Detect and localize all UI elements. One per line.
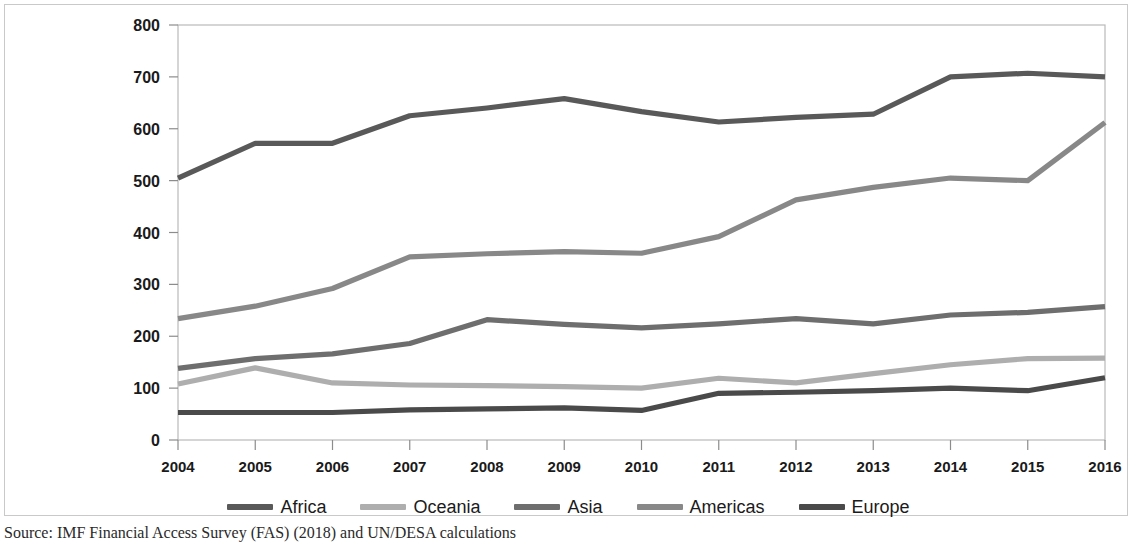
y-axis-labels: 0100200300400500600700800 (133, 17, 160, 449)
x-axis-tick-label: 2009 (548, 458, 581, 475)
legend-label: Oceania (413, 497, 480, 518)
chart-svg: 0100200300400500600700800 20042005200620… (0, 0, 1137, 495)
legend-item-africa[interactable]: Africa (227, 497, 326, 518)
legend-item-europe[interactable]: Europe (799, 497, 910, 518)
x-axis-tick-label: 2012 (779, 458, 812, 475)
legend-item-americas[interactable]: Americas (637, 497, 765, 518)
x-axis-tick-label: 2016 (1088, 458, 1121, 475)
legend-label: Africa (280, 497, 326, 518)
x-axis-labels: 2004200520062007200820092010201120122013… (161, 458, 1121, 475)
x-axis-tick-label: 2014 (934, 458, 968, 475)
y-axis-tick-label: 0 (151, 432, 160, 449)
legend-item-asia[interactable]: Asia (514, 497, 602, 518)
y-axis-tick-label: 500 (133, 173, 160, 190)
x-axis-tick-label: 2006 (316, 458, 349, 475)
x-axis-tick-label: 2008 (470, 458, 503, 475)
x-axis-tick-label: 2005 (239, 458, 272, 475)
y-axis-tick-label: 700 (133, 69, 160, 86)
y-axis-tick-label: 300 (133, 276, 160, 293)
source-note: Source: IMF Financial Access Survey (FAS… (4, 524, 516, 542)
legend-swatch-icon (360, 504, 406, 510)
x-axis-tick-label: 2007 (393, 458, 426, 475)
legend-swatch-icon (227, 504, 273, 510)
y-axis-tick-label: 200 (133, 328, 160, 345)
figure-page: 0100200300400500600700800 20042005200620… (0, 0, 1137, 545)
y-axis-tick-label: 800 (133, 17, 160, 34)
x-axis-tick-label: 2013 (857, 458, 890, 475)
line-chart: 0100200300400500600700800 20042005200620… (0, 0, 1137, 495)
legend-swatch-icon (514, 504, 560, 510)
legend-item-oceania[interactable]: Oceania (360, 497, 480, 518)
legend-label: Americas (690, 497, 765, 518)
y-axis-tick-label: 400 (133, 225, 160, 242)
x-axis-tick-label: 2011 (702, 458, 735, 475)
legend-swatch-icon (799, 504, 845, 510)
x-axis-tick-label: 2015 (1011, 458, 1044, 475)
y-axis-tick-label: 600 (133, 121, 160, 138)
legend-label: Asia (567, 497, 602, 518)
y-axis-tick-label: 100 (133, 380, 160, 397)
x-axis-tick-label: 2004 (161, 458, 195, 475)
legend-swatch-icon (637, 504, 683, 510)
chart-legend: AfricaOceaniaAsiaAmericasEurope (0, 492, 1137, 522)
legend-label: Europe (852, 497, 910, 518)
x-axis-tick-label: 2010 (625, 458, 658, 475)
